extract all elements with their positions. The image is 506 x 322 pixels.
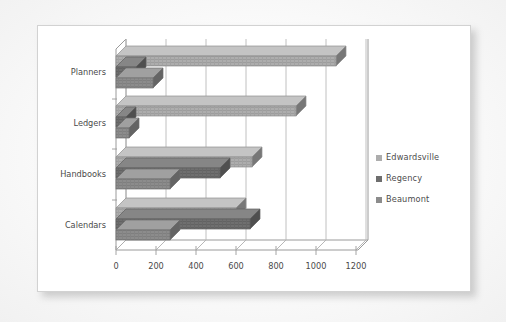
legend-item-beaumont: Beaumont (376, 194, 472, 215)
bar-group-calendars (116, 198, 260, 240)
legend-label-regency: Regency (386, 173, 422, 183)
value-axis-labels: 0 200 400 600 800 1000 1200 (113, 261, 366, 271)
chart-legend: Edwardsville Regency Beaumont (376, 152, 472, 215)
category-axis-labels: Planners Ledgers Handbooks Calendars (60, 67, 106, 230)
screenshot-root: Planners Ledgers Handbooks Calendars 0 2… (0, 0, 506, 322)
bar-group-ledgers (116, 96, 306, 138)
xtick-label-400: 400 (188, 261, 204, 271)
bar-calendars-beaumont (116, 220, 180, 240)
legend-label-edwardsville: Edwardsville (386, 152, 439, 162)
category-label-handbooks: Handbooks (60, 169, 106, 179)
bar-group-planners (116, 46, 346, 88)
bar-group-handbooks (116, 147, 262, 189)
xtick-label-1200: 1200 (346, 261, 367, 271)
category-label-planners: Planners (71, 67, 106, 77)
bar-planners-edwardsville (116, 46, 346, 66)
bar-ledgers-edwardsville (116, 96, 306, 116)
plot-area: Planners Ledgers Handbooks Calendars 0 2… (38, 26, 472, 293)
chart-panel: Planners Ledgers Handbooks Calendars 0 2… (37, 25, 471, 292)
xtick-label-600: 600 (228, 261, 244, 271)
xtick-label-800: 800 (268, 261, 284, 271)
bar-handbooks-beaumont (116, 169, 180, 189)
xtick-label-0: 0 (113, 261, 118, 271)
category-label-ledgers: Ledgers (73, 118, 106, 128)
legend-swatch-icon-beaumont (376, 197, 382, 203)
xtick-label-200: 200 (148, 261, 164, 271)
bar-planners-beaumont (116, 68, 163, 88)
legend-swatch-icon-regency (376, 176, 382, 182)
category-label-calendars: Calendars (65, 220, 106, 230)
xtick-label-1000: 1000 (306, 261, 327, 271)
legend-item-edwardsville: Edwardsville (376, 152, 472, 173)
legend-item-regency: Regency (376, 173, 472, 194)
legend-label-beaumont: Beaumont (386, 194, 429, 204)
legend-swatch-icon-edwardsville (376, 155, 382, 161)
